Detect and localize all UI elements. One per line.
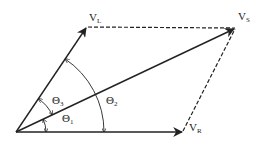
label-vr: VR <box>189 122 202 135</box>
dashed-line-vl-vs <box>88 27 235 28</box>
label-theta3: Θ3 <box>52 95 63 108</box>
label-theta1: Θ1 <box>62 113 73 126</box>
phasor-diagram <box>0 0 265 144</box>
label-theta2: Θ2 <box>106 95 117 108</box>
vector-vl <box>16 28 86 132</box>
vector-vs <box>16 29 234 132</box>
dashed-line-vr-vs <box>183 29 235 131</box>
label-vl: VL <box>89 12 101 25</box>
arc-theta3 <box>38 99 52 115</box>
arc-theta1 <box>43 119 46 132</box>
label-vs: VS <box>238 11 250 24</box>
